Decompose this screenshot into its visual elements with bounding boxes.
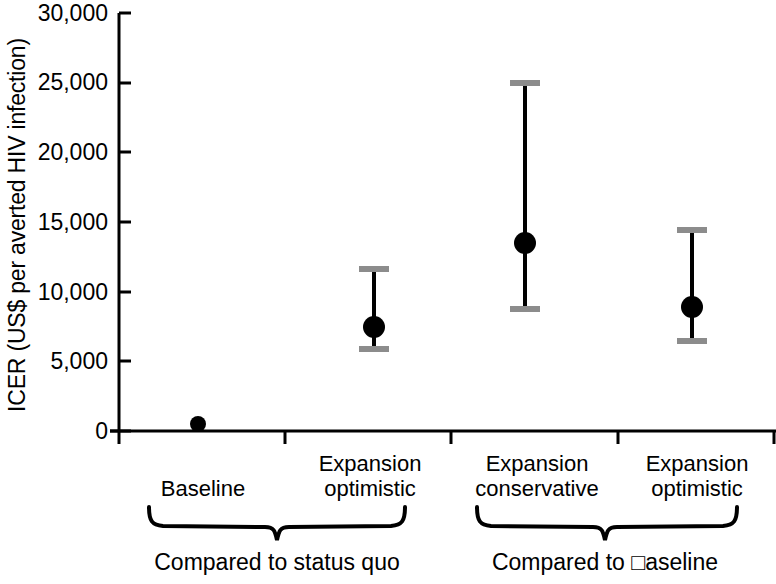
- category-line-1: Baseline: [118, 476, 288, 501]
- x-axis-ticks: [119, 431, 774, 444]
- group-label-baseline: Compared to □aseline: [455, 551, 755, 574]
- category-line-1: Expansion: [617, 451, 776, 476]
- category-line-1: Expansion: [447, 451, 627, 476]
- x-category-label-expansion-conservative: Expansion conservative: [447, 451, 627, 501]
- x-category-label-expansion-optimistic-2: Expansion optimistic: [617, 451, 776, 501]
- icer-error-bar-chart: ICER (US$ per averted HIV infection) 30,…: [0, 0, 776, 584]
- group-label-status-quo: Compared to status quo: [127, 551, 427, 574]
- group-brace-baseline: [477, 507, 737, 540]
- data-point-expansion-conservative: [510, 82, 540, 310]
- marker: [514, 232, 536, 254]
- group-brace-status-quo: [149, 507, 405, 540]
- x-category-label-expansion-optimistic-1: Expansion optimistic: [285, 451, 455, 501]
- data-point-baseline: [190, 416, 206, 432]
- marker: [681, 296, 703, 318]
- category-line-2: optimistic: [617, 476, 776, 501]
- marker: [363, 316, 385, 338]
- data-point-expansion-optimistic-status-quo: [359, 268, 389, 350]
- x-category-label-baseline: Baseline: [118, 476, 288, 501]
- category-line-2: optimistic: [285, 476, 455, 501]
- category-line-2: conservative: [447, 476, 627, 501]
- data-point-expansion-optimistic-baseline: [677, 229, 707, 342]
- category-line-1: Expansion: [285, 451, 455, 476]
